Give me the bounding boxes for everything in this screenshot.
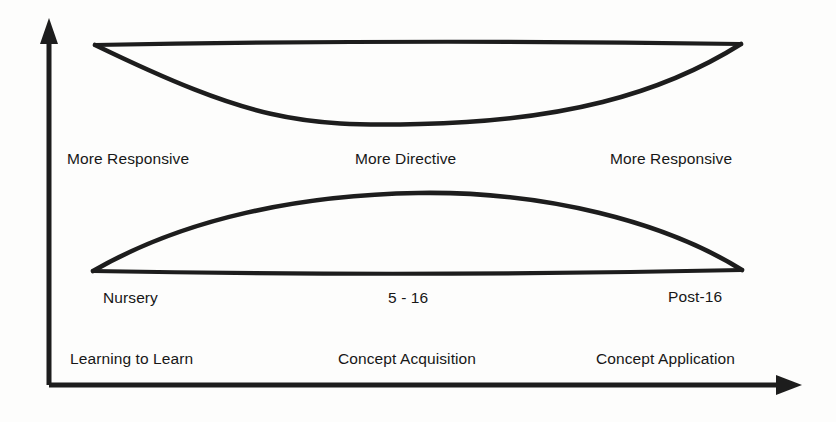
- lower-band-shape: [93, 193, 742, 274]
- caption-label-concept-acquisition: Concept Acquisition: [338, 351, 476, 367]
- lower-band-bottom-edge: [93, 270, 742, 274]
- horizontal-axis-arrowhead: [776, 375, 802, 395]
- vertical-axis-arrowhead: [40, 18, 58, 44]
- stage-label-nursery: Nursery: [103, 290, 158, 306]
- band-label-directive-middle: More Directive: [355, 151, 456, 167]
- stage-label-post-sixteen: Post-16: [668, 289, 722, 305]
- band-label-responsive-right: More Responsive: [610, 151, 732, 167]
- caption-label-concept-application: Concept Application: [596, 351, 735, 367]
- upper-band-bottom-edge: [95, 44, 741, 125]
- caption-label-learning-to-learn: Learning to Learn: [70, 351, 193, 367]
- band-label-responsive-left: More Responsive: [67, 151, 189, 167]
- lower-band-top-edge: [93, 193, 742, 271]
- upper-band-shape: [95, 42, 741, 125]
- upper-band-top-edge: [95, 42, 741, 45]
- stage-label-five-to-sixteen: 5 - 16: [388, 290, 428, 306]
- diagram-canvas: More Responsive More Directive More Resp…: [0, 0, 836, 422]
